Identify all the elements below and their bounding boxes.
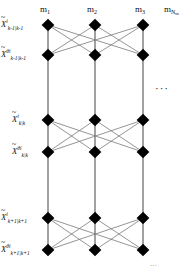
node-diamond <box>89 146 102 159</box>
row-label-superscript: i <box>6 211 8 217</box>
node-diamond <box>89 19 102 32</box>
column-header-mNm: mNm <box>164 5 179 17</box>
node-diamond <box>89 114 102 127</box>
row-label-superscript: θi <box>6 243 10 249</box>
trellis-graph <box>0 0 191 270</box>
row-label-subscript: k|k <box>19 120 25 126</box>
column-header-sub: Nm <box>171 9 179 15</box>
tilde-accent: ~ <box>12 109 16 117</box>
row-label-k-1-theta: ~Xθik-1|k-1 <box>1 49 26 61</box>
row-label-subscript: k+1|k+1 <box>10 250 29 256</box>
row-label-k+1-theta: ~Xθik+1|k+1 <box>1 244 30 256</box>
row-label-superscript: θi <box>17 145 21 151</box>
node-diamond <box>137 212 150 225</box>
row-label-superscript: θi <box>6 48 10 54</box>
column-header-sub: 2 <box>94 9 97 15</box>
tilde-accent: ~ <box>1 207 5 215</box>
node-diamond <box>42 49 55 62</box>
row-label-symbol: ~X <box>12 114 17 124</box>
node-diamond <box>42 244 55 257</box>
row-label-symbol: ~X <box>12 146 17 156</box>
row-label-subscript: k-1|k-1 <box>8 25 24 31</box>
row-label-symbol: ~X <box>1 49 6 59</box>
row-label-superscript: i <box>6 18 8 24</box>
tilde-accent: ~ <box>1 14 5 22</box>
bottom-caption-remnant: ··· <box>150 263 157 270</box>
node-diamond <box>42 114 55 127</box>
column-header-m2: m2 <box>87 5 97 15</box>
node-diamond <box>137 19 150 32</box>
node-diamond <box>89 212 102 225</box>
column-header-base: m <box>164 4 171 14</box>
row-label-subscript: k+1|k+1 <box>8 218 27 224</box>
column-header-m3: m3 <box>135 5 145 15</box>
tilde-accent: ~ <box>12 141 16 149</box>
row-label-superscript: i <box>17 113 19 119</box>
column-header-m1: m1 <box>40 5 50 15</box>
row-label-k-1-prior: ~Xik-1|k-1 <box>1 19 23 31</box>
node-diamond <box>89 244 102 257</box>
node-diamond <box>42 212 55 225</box>
column-header-base: m <box>40 4 47 14</box>
node-diamond <box>137 244 150 257</box>
node-diamond <box>137 49 150 62</box>
node-diamond <box>89 49 102 62</box>
tilde-accent: ~ <box>1 239 5 247</box>
column-header-sub: 1 <box>47 9 50 15</box>
columns-ellipsis: ··· <box>155 83 169 94</box>
row-label-symbol: ~X <box>1 19 6 29</box>
row-label-subscript: k|k <box>21 152 27 158</box>
diagram-canvas: m1 m2 m3 mNm ~Xik-1|k-1 ~Xθik-1|k-1 ~Xik… <box>0 0 191 270</box>
row-label-k-theta: ~Xθik|k <box>12 146 28 158</box>
node-diamond <box>42 19 55 32</box>
column-header-subsub: m <box>175 11 179 16</box>
node-diamond <box>137 146 150 159</box>
column-header-sub: 3 <box>142 9 145 15</box>
node-diamond <box>137 114 150 127</box>
row-label-k-prior: ~Xik|k <box>12 114 25 126</box>
row-label-k+1-prior: ~Xik+1|k+1 <box>1 212 27 224</box>
node-diamond <box>42 146 55 159</box>
column-header-base: m <box>87 4 94 14</box>
row-label-symbol: ~X <box>1 212 6 222</box>
row-label-subscript: k-1|k-1 <box>10 55 26 61</box>
tilde-accent: ~ <box>1 44 5 52</box>
column-header-base: m <box>135 4 142 14</box>
row-label-symbol: ~X <box>1 244 6 254</box>
